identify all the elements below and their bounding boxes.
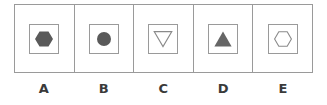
- option-cell-c[interactable]: [134, 5, 194, 72]
- glyph-frame-a: [29, 24, 59, 54]
- filled-triangle-up-icon: [213, 30, 233, 48]
- option-cell-a[interactable]: [15, 5, 75, 72]
- option-label-b: B: [74, 76, 134, 100]
- glyph-frame-b: [89, 24, 119, 54]
- option-cell-e[interactable]: [253, 5, 312, 72]
- option-label-a: A: [14, 76, 74, 100]
- answer-option-figure: A B C D E: [0, 0, 327, 105]
- outline-hexagon-icon: [273, 29, 293, 49]
- option-label-c: C: [134, 76, 194, 100]
- glyph-frame-d: [208, 24, 238, 54]
- option-label-row: A B C D E: [14, 76, 313, 100]
- option-label-d: D: [193, 76, 253, 100]
- option-strip: [14, 4, 313, 73]
- option-label-e: E: [253, 76, 313, 100]
- glyph-frame-e: [268, 24, 298, 54]
- option-cell-b[interactable]: [75, 5, 135, 72]
- filled-circle-icon: [96, 31, 112, 47]
- filled-hexagon-icon: [34, 29, 54, 49]
- glyph-frame-c: [148, 24, 178, 54]
- option-cell-d[interactable]: [194, 5, 254, 72]
- outline-triangle-down-icon: [153, 30, 173, 48]
